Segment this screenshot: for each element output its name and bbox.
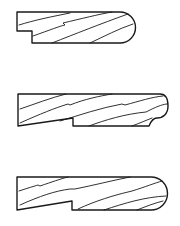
diagram-canvas bbox=[0, 0, 180, 226]
profile-1 bbox=[17, 12, 136, 43]
profile-3 bbox=[17, 177, 168, 210]
profile-2 bbox=[18, 94, 168, 126]
profile-3-outline bbox=[17, 177, 168, 210]
profile-2-outline bbox=[18, 94, 168, 126]
profile-1-outline bbox=[17, 12, 136, 43]
